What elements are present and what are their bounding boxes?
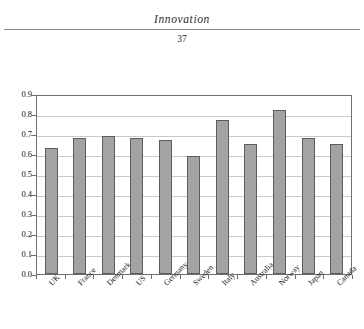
y-axis-tick-label: 0.2	[6, 230, 32, 239]
bar-series	[37, 96, 351, 274]
y-axis-tick-label: 0.4	[6, 190, 32, 199]
header-rule	[4, 29, 360, 30]
x-axis-tick-label: UK	[47, 273, 62, 288]
running-head: Innovation	[0, 0, 364, 26]
bar	[302, 138, 315, 274]
bar	[45, 148, 58, 274]
y-axis-tick-label: 0.9	[6, 90, 32, 99]
bar	[73, 138, 86, 274]
y-axis-tick-label: 0.8	[6, 110, 32, 119]
y-axis-tick-label: 0.7	[6, 130, 32, 139]
x-axis-tick-mark	[65, 275, 66, 279]
bar	[244, 144, 257, 274]
x-axis: UKFranceDenmarkUSGermanySwedenItalyAustr…	[36, 275, 352, 329]
y-axis-tick-label: 0.6	[6, 150, 32, 159]
bar	[273, 110, 286, 274]
bar	[159, 140, 172, 274]
page-header: Innovation 37	[0, 0, 364, 45]
x-axis-tick-mark	[36, 275, 37, 279]
y-axis-tick-label: 0.1	[6, 250, 32, 259]
bar-chart-figure: 0.90.80.70.60.50.40.30.20.10.0 UKFranceD…	[0, 82, 364, 329]
x-axis-tick-mark	[295, 275, 296, 279]
plot-area	[36, 95, 352, 275]
x-axis-tick-mark	[151, 275, 152, 279]
page-number: 37	[0, 34, 364, 45]
x-axis-tick-mark	[237, 275, 238, 279]
y-axis-tick-label: 0.3	[6, 210, 32, 219]
bar	[330, 144, 343, 274]
y-axis-tick-label: 0.5	[6, 170, 32, 179]
x-axis-tick-mark	[266, 275, 267, 279]
x-axis-tick-mark	[180, 275, 181, 279]
x-axis-tick-label: US	[134, 274, 148, 288]
bar	[187, 156, 200, 274]
bar	[102, 136, 115, 274]
bar	[130, 138, 143, 274]
y-axis-tick-label: 0.0	[6, 270, 32, 279]
bar	[216, 120, 229, 274]
